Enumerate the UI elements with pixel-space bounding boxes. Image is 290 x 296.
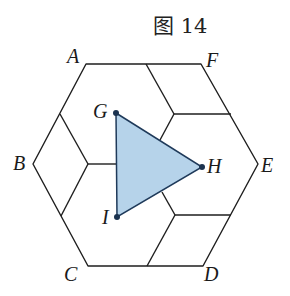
left-rhombus-line-2	[61, 164, 88, 216]
label-B: B	[13, 152, 25, 174]
label-I: I	[101, 206, 110, 228]
bottom-rhombus-line-2	[147, 215, 175, 266]
label-E: E	[260, 154, 273, 176]
top-to-triangle-line	[160, 114, 174, 140]
label-D: D	[203, 263, 219, 285]
point-I	[114, 214, 120, 220]
label-F: F	[205, 49, 219, 71]
label-C: C	[64, 263, 78, 285]
label-A: A	[65, 45, 80, 67]
label-G: G	[93, 100, 108, 122]
label-H: H	[206, 155, 223, 177]
hexagon-figure: 图 14 A F B E C D G H I	[0, 0, 290, 296]
top-rhombus-line-1	[146, 64, 174, 114]
figure-caption: 图 14	[153, 14, 207, 38]
point-G	[113, 110, 119, 116]
bottom-to-triangle-line	[162, 192, 175, 215]
left-rhombus-line-1	[60, 114, 88, 164]
point-H	[199, 164, 205, 170]
shaded-triangle-GHI	[116, 113, 202, 217]
